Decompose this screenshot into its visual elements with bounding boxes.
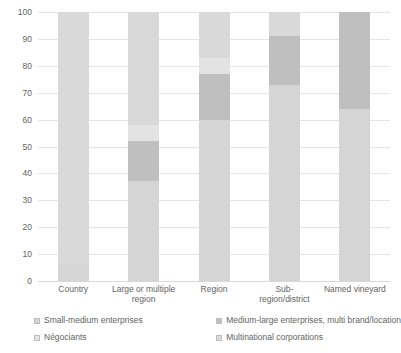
y-tick-label-50: 50: [23, 142, 32, 151]
y-tick-label-80: 80: [23, 62, 32, 71]
x-axis: CountryLarge or multiple regionRegionSub…: [38, 284, 390, 310]
y-tick-label-90: 90: [23, 35, 32, 44]
y-tick-label-40: 40: [23, 169, 32, 178]
bar-segment[interactable]: [58, 12, 89, 265]
legend-item[interactable]: Medium-large enterprises, multi brand/lo…: [216, 312, 401, 329]
legend-swatch-icon: [34, 335, 40, 341]
y-tick-label-70: 70: [23, 88, 32, 97]
bar-segment[interactable]: [269, 12, 300, 36]
x-tick-label-4: Named vineyard: [320, 284, 390, 310]
legend-swatch-icon: [34, 318, 40, 324]
bar-segment[interactable]: [128, 125, 159, 141]
y-tick-label-10: 10: [23, 250, 32, 259]
stacked-bar-chart: 1009080706050403020100 CountryLarge or m…: [0, 0, 401, 353]
bar-segment[interactable]: [339, 109, 370, 281]
legend-label: Small-medium enterprises: [44, 316, 143, 325]
bar-segment[interactable]: [128, 181, 159, 281]
y-tick-label-0: 0: [27, 277, 32, 286]
legend-label: Négociants: [44, 333, 87, 342]
gridline-0: [38, 281, 390, 282]
bar-segment[interactable]: [199, 12, 230, 58]
bar-slot: [38, 12, 108, 281]
bar-slot: [108, 12, 178, 281]
legend-item[interactable]: Small-medium enterprises: [34, 312, 216, 329]
bar-segment[interactable]: [128, 141, 159, 181]
legend-swatch-icon: [216, 318, 222, 324]
legend-item[interactable]: Multinational corporations: [216, 329, 401, 346]
x-tick-label-0: Country: [38, 284, 108, 310]
stacked-bar[interactable]: [58, 12, 89, 281]
stacked-bar[interactable]: [128, 12, 159, 281]
y-tick-label-100: 100: [18, 8, 32, 17]
y-tick-label-30: 30: [23, 196, 32, 205]
y-tick-label-20: 20: [23, 223, 32, 232]
legend-swatch-icon: [216, 335, 222, 341]
bar-segment[interactable]: [199, 120, 230, 281]
bar-segment[interactable]: [199, 58, 230, 74]
bar-slot: [249, 12, 319, 281]
bar-segment[interactable]: [269, 36, 300, 84]
x-tick-label-1: Large or multiple region: [108, 284, 178, 310]
stacked-bar[interactable]: [199, 12, 230, 281]
bar-group: [38, 12, 390, 281]
bar-segment[interactable]: [339, 12, 370, 109]
bar-segment[interactable]: [128, 12, 159, 125]
bar-slot: [320, 12, 390, 281]
x-tick-label-3: Sub-region/district: [249, 284, 319, 310]
x-tick-label-2: Region: [179, 284, 249, 310]
chart-legend: Small-medium enterprisesMedium-large ent…: [0, 312, 401, 346]
plot-area: [38, 12, 390, 281]
stacked-bar[interactable]: [269, 12, 300, 281]
bar-segment[interactable]: [269, 85, 300, 281]
stacked-bar[interactable]: [339, 12, 370, 281]
bar-segment[interactable]: [58, 265, 89, 281]
bar-slot: [179, 12, 249, 281]
legend-label: Medium-large enterprises, multi brand/lo…: [226, 316, 401, 325]
y-tick-label-60: 60: [23, 115, 32, 124]
legend-item[interactable]: Négociants: [34, 329, 216, 346]
bar-segment[interactable]: [199, 74, 230, 120]
y-axis: 1009080706050403020100: [0, 0, 38, 293]
legend-label: Multinational corporations: [226, 333, 323, 342]
